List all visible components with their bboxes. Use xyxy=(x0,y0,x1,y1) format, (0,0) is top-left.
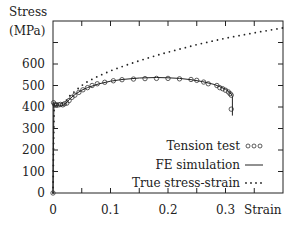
legend-label: FE simulation xyxy=(155,158,240,172)
y-tick-label: 600 xyxy=(22,57,45,71)
x-axis-title: Strain xyxy=(244,203,282,217)
stress-strain-chart: 00.10.20.3 0100200300400500600 Stress (M… xyxy=(0,0,296,226)
y-axis-title-line2: (MPa) xyxy=(9,24,45,38)
y-axis-title-line1: Stress xyxy=(9,5,47,19)
x-axis-tick-labels: 00.10.20.3 xyxy=(49,203,235,217)
x-tick-label: 0 xyxy=(49,203,57,217)
y-tick-label: 300 xyxy=(22,122,45,136)
x-tick-label: 0.3 xyxy=(216,203,235,217)
y-tick-label: 100 xyxy=(22,165,45,179)
y-tick-label: 0 xyxy=(37,186,45,200)
y-tick-label: 400 xyxy=(22,100,45,114)
x-tick-label: 0.2 xyxy=(158,203,177,217)
legend: Tension testFE simulationTrue stress-str… xyxy=(132,139,263,190)
legend-label: True stress-strain xyxy=(132,176,240,190)
y-tick-label: 500 xyxy=(22,79,45,93)
y-axis-tick-labels: 0100200300400500600 xyxy=(22,57,45,200)
y-tick-label: 200 xyxy=(22,143,45,157)
legend-label: Tension test xyxy=(166,139,240,153)
x-tick-label: 0.1 xyxy=(101,203,120,217)
